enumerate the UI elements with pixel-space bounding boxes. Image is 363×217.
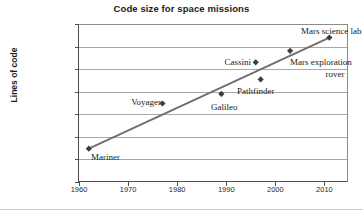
- x-tick-mark: [177, 182, 178, 186]
- point-label-mars-exploration-rover: Mars exploration: [290, 57, 363, 67]
- y-axis-label: Lines of code: [9, 25, 19, 125]
- x-tick-mark: [79, 182, 80, 186]
- point-label-mars-exploration-rover-line2: rover: [290, 69, 363, 79]
- chart-figure: Code size for space missions Lines of co…: [0, 0, 363, 217]
- data-point-pathfinder: [258, 76, 264, 82]
- x-tick-mark: [275, 182, 276, 186]
- bottom-divider: [0, 209, 363, 210]
- point-label-mariner: Mariner: [91, 152, 151, 162]
- point-label-pathfinder: Pathfinder: [237, 86, 307, 96]
- x-tick-label: 2010: [304, 185, 344, 194]
- x-tick-mark: [324, 182, 325, 186]
- plot-area: 10,000,0001,000,000100,00010,00010001001…: [78, 24, 348, 182]
- point-label-galileo: Galileo: [211, 102, 271, 112]
- x-tick-label: 1970: [108, 185, 148, 194]
- x-tick-label: 1990: [206, 185, 246, 194]
- data-point-mariner: [86, 146, 92, 152]
- point-label-cassini: Cassini: [191, 57, 251, 67]
- x-tick-label: 1960: [59, 185, 99, 194]
- point-label-mars-science-lab: Mars science lab: [301, 26, 363, 36]
- chart-title: Code size for space missions: [0, 3, 363, 14]
- x-tick-mark: [128, 182, 129, 186]
- x-tick-label: 2000: [255, 185, 295, 194]
- x-tick-mark: [226, 182, 227, 186]
- data-point-cassini: [253, 59, 259, 65]
- point-label-voyager: Voyager: [101, 97, 161, 107]
- data-point-mars-exploration-rover: [287, 48, 293, 54]
- data-point-galileo: [218, 91, 224, 97]
- x-tick-label: 1980: [157, 185, 197, 194]
